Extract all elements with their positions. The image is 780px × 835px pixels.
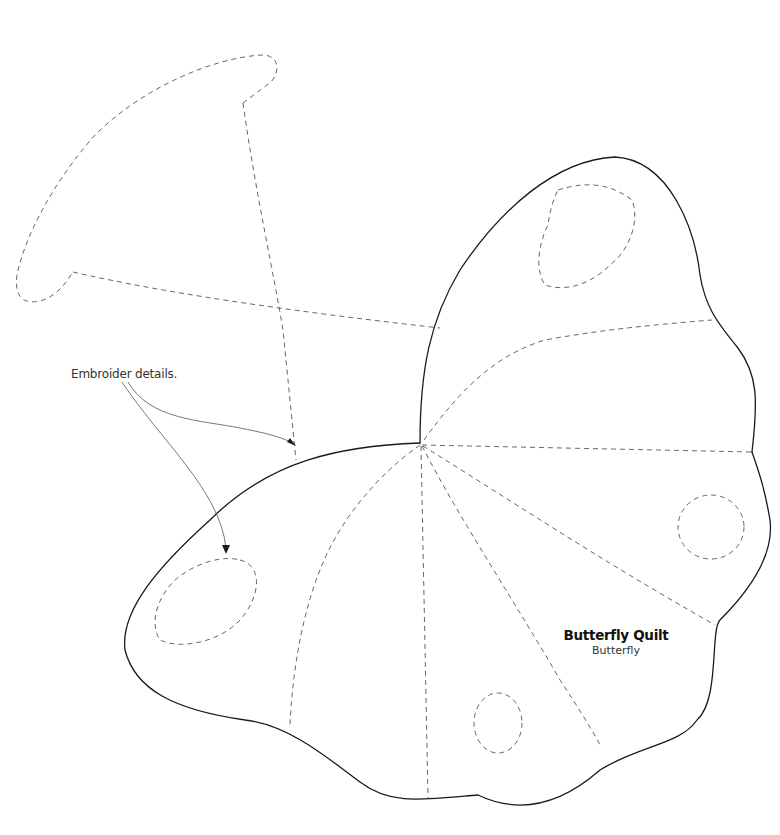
lower-wing-outline [125,443,771,805]
pattern-subtitle: Butterfly [560,644,672,657]
annotation-leader-lower [122,382,226,548]
lower-wing-circle-bottom [474,693,522,753]
butterfly-pattern-diagram [0,0,780,835]
pattern-title-block: Butterfly Quilt Butterfly [560,627,672,657]
lower-wing-vein-1 [290,445,420,725]
lower-wing-vein-4 [423,446,715,625]
lower-wing-vein-2 [421,446,428,798]
upper-wing-vein-bottom [422,445,752,452]
upper-wing-vein-curve [424,320,712,440]
lower-wing-vein-3 [422,446,600,745]
ghost-wing-outline [16,55,277,302]
upper-right-wing-outline [420,157,755,452]
lower-wing-oval [155,559,257,645]
annotation-leader-upper [128,382,292,443]
upper-wing-oval [539,185,635,288]
arrowhead-lower [222,545,230,554]
lower-wing-circle-right [678,495,744,559]
ghost-wing-vein-horizontal [73,272,440,328]
pattern-title: Butterfly Quilt [560,627,672,643]
embroider-details-note: Embroider details. [71,367,177,381]
ghost-wing-vein-vertical [243,103,296,460]
